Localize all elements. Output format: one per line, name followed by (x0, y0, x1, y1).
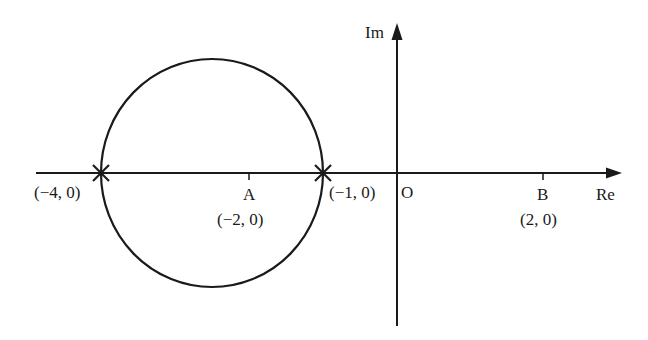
real-axis-arrow-icon (606, 168, 622, 179)
point-B-name: B (537, 186, 548, 203)
point-label-minus4: (−4, 0) (34, 184, 80, 201)
real-axis-label: Re (596, 186, 615, 203)
complex-plane-diagram (0, 0, 648, 340)
point-B-label: (2, 0) (520, 211, 557, 228)
origin-label: O (401, 184, 413, 201)
imaginary-axis-arrow-icon (392, 23, 403, 40)
imag-axis-label: Im (365, 24, 384, 41)
point-A-label: (−2, 0) (217, 211, 263, 228)
point-label-minus1: (−1, 0) (329, 184, 375, 201)
point-A-name: A (243, 186, 255, 203)
